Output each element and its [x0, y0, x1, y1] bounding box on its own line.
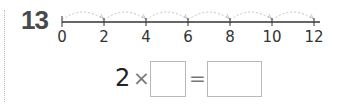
jump-arc	[188, 12, 230, 20]
multiplicand: 2	[115, 64, 130, 92]
product-answer-box[interactable]	[207, 61, 262, 97]
arc-arrowheads	[100, 14, 314, 20]
jump-arc	[146, 12, 188, 20]
tick-label: 12	[304, 28, 323, 46]
factor-answer-box[interactable]	[150, 61, 186, 97]
tick-label: 8	[225, 28, 235, 46]
tick-label: 2	[99, 28, 109, 46]
number-line: 0 2 4 6 8 10 12	[0, 0, 339, 50]
tick-label: 4	[141, 28, 151, 46]
tick-label: 6	[183, 28, 193, 46]
jump-arc	[272, 12, 314, 20]
equals-symbol: =	[189, 66, 206, 90]
jump-arc	[62, 12, 104, 20]
times-symbol: ×	[133, 66, 150, 90]
jump-arc	[230, 12, 272, 20]
tick-label: 10	[262, 28, 281, 46]
tick-label: 0	[57, 28, 67, 46]
jump-arc	[104, 12, 146, 20]
